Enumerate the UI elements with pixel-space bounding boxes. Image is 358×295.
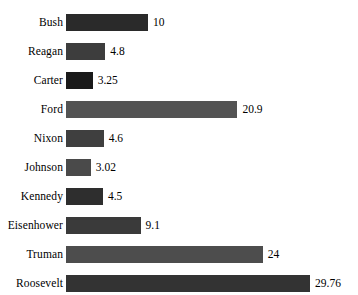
- bar-chart: Bush10Reagan4.8Carter3.25Ford20.9Nixon4.…: [0, 0, 358, 295]
- bar-value-label: 4.6: [104, 132, 123, 145]
- bar-value-label: 4.5: [103, 190, 122, 203]
- bar-category-label: Nixon: [0, 132, 66, 145]
- bar-category-label: Johnson: [0, 161, 66, 174]
- bar-value-label: 20.9: [237, 103, 262, 116]
- bar-row: Johnson3.02: [0, 153, 358, 182]
- bar-track: 9.1: [66, 217, 358, 234]
- bar-value-label: 24: [263, 248, 280, 261]
- bar-row: Kennedy4.5: [0, 182, 358, 211]
- bar[interactable]: [66, 101, 237, 118]
- bar-category-label: Ford: [0, 103, 66, 116]
- bar-track: 24: [66, 246, 358, 263]
- bar[interactable]: [66, 217, 141, 234]
- bar[interactable]: [66, 159, 91, 176]
- bar-category-label: Bush: [0, 16, 66, 29]
- bar[interactable]: [66, 246, 263, 263]
- bar-value-label: 4.8: [105, 45, 124, 58]
- bar-value-label: 3.02: [91, 161, 116, 174]
- bar[interactable]: [66, 14, 148, 31]
- bar-row: Carter3.25: [0, 66, 358, 95]
- bar-row: Roosevelt29.76: [0, 269, 358, 295]
- bar-row: Bush10: [0, 8, 358, 37]
- bar-track: 29.76: [66, 275, 358, 292]
- bar-track: 20.9: [66, 101, 358, 118]
- bar-track: 4.6: [66, 130, 358, 147]
- bar-value-label: 29.76: [310, 277, 341, 290]
- chart-title-remnant: [46, 0, 196, 3]
- bar-category-label: Carter: [0, 74, 66, 87]
- bar-track: 4.8: [66, 43, 358, 60]
- bar-category-label: Truman: [0, 248, 66, 261]
- bar-value-label: 9.1: [141, 219, 160, 232]
- bar[interactable]: [66, 72, 93, 89]
- bar-row: Ford20.9: [0, 95, 358, 124]
- bar[interactable]: [66, 130, 104, 147]
- bar-category-label: Kennedy: [0, 190, 66, 203]
- bar-value-label: 10: [148, 16, 165, 29]
- bar-row: Eisenhower9.1: [0, 211, 358, 240]
- bar-track: 10: [66, 14, 358, 31]
- bar-value-label: 3.25: [93, 74, 118, 87]
- bar-category-label: Eisenhower: [0, 219, 66, 232]
- bar-category-label: Roosevelt: [0, 277, 66, 290]
- bar[interactable]: [66, 188, 103, 205]
- bar-row: Nixon4.6: [0, 124, 358, 153]
- bar-track: 3.02: [66, 159, 358, 176]
- bar[interactable]: [66, 275, 310, 292]
- bar[interactable]: [66, 43, 105, 60]
- bar-rows: Bush10Reagan4.8Carter3.25Ford20.9Nixon4.…: [0, 8, 358, 295]
- bar-row: Truman24: [0, 240, 358, 269]
- bar-row: Reagan4.8: [0, 37, 358, 66]
- bar-track: 3.25: [66, 72, 358, 89]
- bar-category-label: Reagan: [0, 45, 66, 58]
- bar-track: 4.5: [66, 188, 358, 205]
